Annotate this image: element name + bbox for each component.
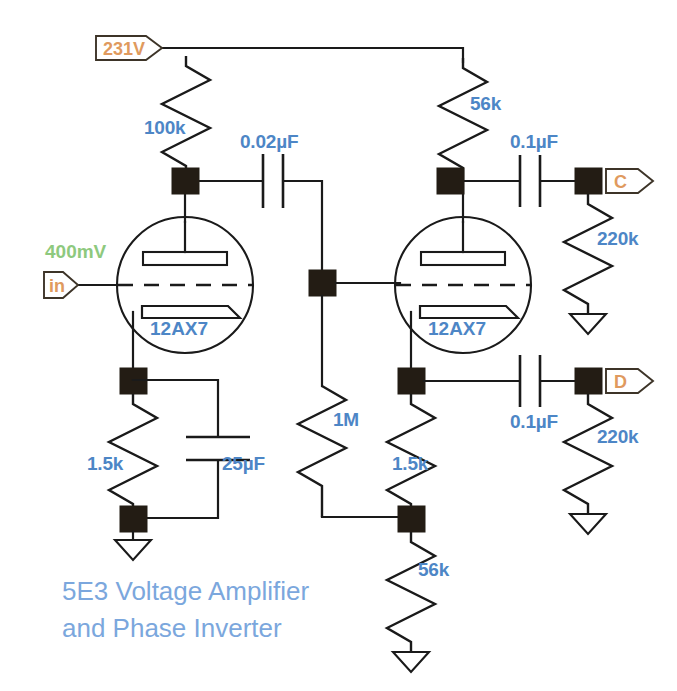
supply-tag-label: 231V xyxy=(103,39,145,59)
capacitor-0.1uf-c-label: 0.1µF xyxy=(510,131,558,152)
resistor-1m-label: 1M xyxy=(333,409,359,430)
resistor-1.5k-v1: 1.5k xyxy=(87,394,157,516)
resistor-56k-tail-label: 56k xyxy=(418,559,450,580)
resistor-220k-d-label: 220k xyxy=(597,426,639,447)
v2-cathode-element xyxy=(420,306,518,318)
ground-symbol-c xyxy=(570,314,606,334)
v1-plate-element xyxy=(143,252,227,265)
tube-v1-label: 12AX7 xyxy=(150,318,208,339)
node-v2-grid xyxy=(309,270,336,296)
diagram-title: 5E3 Voltage Amplifier and Phase Inverter xyxy=(62,576,309,643)
capacitor-25uf-label: 25µF xyxy=(222,453,265,474)
capacitor-0.1uf-d: 0.1µF xyxy=(424,355,578,432)
tube-v1: 12AX7 xyxy=(117,217,253,353)
input-tag[interactable]: in xyxy=(44,272,78,298)
resistor-56k-plate: 56k xyxy=(439,58,502,180)
diagram-title-line2: and Phase Inverter xyxy=(62,613,282,643)
v1-cathode-element xyxy=(142,306,240,318)
schematic-canvas: 231V 100k 56k 0.02µF 0.1µF C xyxy=(0,0,677,691)
resistor-1m: 1M xyxy=(298,386,400,517)
resistor-100k: 100k xyxy=(144,56,210,178)
node-v1-plate xyxy=(172,168,199,194)
tube-v2-label: 12AX7 xyxy=(428,318,486,339)
output-tag-c-label: C xyxy=(614,172,627,192)
ground-symbol-tail xyxy=(393,652,429,672)
resistor-56k-plate-label: 56k xyxy=(470,93,502,114)
node-v2-cathode xyxy=(398,368,425,394)
capacitor-0.02uf-label: 0.02µF xyxy=(240,131,298,152)
input-tag-label: in xyxy=(49,276,65,296)
resistor-1.5k-v2-label: 1.5k xyxy=(392,453,429,474)
input-signal-label: 400mV xyxy=(45,241,107,262)
resistor-100k-label: 100k xyxy=(144,117,186,138)
supply-tag-231v[interactable]: 231V xyxy=(96,36,162,60)
capacitor-0.02uf: 0.02µF xyxy=(240,131,298,208)
output-tag-c[interactable]: C xyxy=(606,169,653,193)
output-tag-d-label: D xyxy=(614,372,627,392)
diagram-title-line1: 5E3 Voltage Amplifier xyxy=(62,576,309,606)
resistor-56k-tail: 56k xyxy=(387,532,450,672)
resistor-220k-c: 220k xyxy=(564,194,639,334)
node-tail xyxy=(398,506,425,532)
tube-v2: 12AX7 xyxy=(395,217,531,353)
supply-rail xyxy=(132,48,463,62)
node-v1-cathode-ground xyxy=(120,506,147,532)
resistor-220k-c-label: 220k xyxy=(597,228,639,249)
resistor-1.5k-v2: 1.5k xyxy=(387,394,435,516)
v2-plate-element xyxy=(421,252,505,265)
node-v2-plate xyxy=(437,168,464,194)
ground-symbol-d xyxy=(570,514,606,534)
capacitor-0.1uf-c: 0.1µF xyxy=(510,131,558,207)
output-tag-d[interactable]: D xyxy=(606,369,653,393)
v2-grid-wire xyxy=(322,283,400,386)
resistor-1.5k-v1-label: 1.5k xyxy=(87,453,124,474)
capacitor-0.1uf-d-label: 0.1µF xyxy=(510,411,558,432)
ground-symbol-v1 xyxy=(115,532,151,560)
capacitor-25uf: 25µF xyxy=(133,380,265,518)
node-output-d xyxy=(575,368,602,394)
resistor-220k-d: 220k xyxy=(564,394,639,534)
node-output-c xyxy=(575,168,602,194)
